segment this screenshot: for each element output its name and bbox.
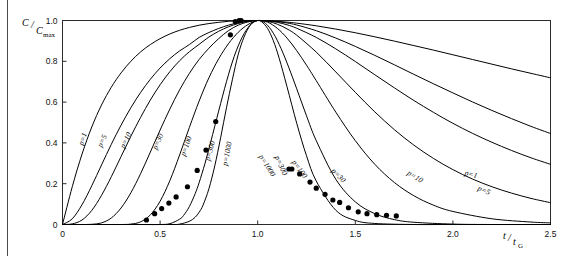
data-point [356, 209, 361, 214]
curve-label-right-p-30: p=30 [329, 166, 348, 185]
y-axis-title-slash: / [30, 19, 35, 30]
chart-svg: 00.51.01.52.02.5 00.20.40.60.81.0 p=1p=1… [0, 0, 573, 256]
x-tick-label: 1.0 [252, 229, 264, 239]
data-point [174, 194, 179, 199]
curve-p-30 [63, 20, 551, 224]
curve-series-group [63, 20, 551, 224]
data-point [384, 213, 389, 218]
data-point [314, 186, 319, 191]
curve-label-left-p-1: p=1 [76, 132, 89, 148]
y-tick-label: 0 [53, 220, 58, 230]
figure-container: 00.51.01.52.02.5 00.20.40.60.81.0 p=1p=1… [0, 0, 573, 256]
data-point [307, 179, 312, 184]
y-tick-label: 1.0 [46, 16, 58, 26]
data-point [185, 184, 190, 189]
curve-label-right-p-10: p=10 [405, 168, 425, 185]
y-tick-label: 0.6 [46, 97, 58, 107]
curve-p-100 [63, 20, 551, 224]
x-axis-title-numerator: t [503, 230, 506, 241]
data-point [330, 197, 335, 202]
y-axis-title-denominator: C [36, 25, 43, 36]
curve-labels-group: p=1p=1p=5p=5p=10p=10p=30p=30p=100p=100p=… [76, 131, 492, 197]
x-tick-label: 2.0 [447, 229, 459, 239]
curve-label-right-p-5: p=5 [476, 183, 492, 197]
curve-p-5 [63, 20, 551, 224]
y-axis-title-numerator: C [22, 17, 29, 28]
data-point [346, 205, 351, 210]
curve-label-right-p-1000: p=1000 [257, 152, 278, 178]
x-axis-title: t / t G [503, 230, 523, 250]
data-point [213, 119, 218, 124]
y-axis-ticks: 00.20.40.60.81.0 [46, 16, 67, 230]
plot-frame [63, 21, 551, 225]
curve-label-left-p-10: p=10 [117, 131, 133, 151]
x-tick-label: 1.5 [349, 229, 361, 239]
curve-p-300 [63, 20, 551, 224]
data-point [394, 213, 399, 218]
data-point [195, 168, 200, 173]
x-tick-label: 2.5 [545, 229, 557, 239]
y-tick-label: 0.8 [46, 56, 58, 66]
curve-label-left-p-30: p=30 [150, 132, 166, 152]
curve-label-left-p-300: p=300 [203, 140, 217, 163]
data-point [159, 206, 164, 211]
curve-p-1 [63, 20, 551, 224]
plot-border [63, 21, 551, 225]
curve-label-left-p-100: p=100 [178, 135, 194, 158]
data-point [166, 200, 171, 205]
data-point [228, 32, 233, 37]
data-point [364, 211, 369, 216]
y-tick-label: 0.2 [46, 179, 58, 189]
data-point [374, 212, 379, 217]
y-axis-title-subscript: max [43, 31, 56, 39]
curve-label-right-p-1: p=1 [463, 168, 478, 180]
x-axis-title-subscript: G [518, 242, 523, 250]
data-point [322, 192, 327, 197]
data-point [239, 18, 244, 23]
page-margin-rule [7, 0, 8, 256]
curve-label-left-p-1000: p=1000 [220, 141, 234, 168]
data-point [152, 211, 157, 216]
y-tick-label: 0.4 [46, 138, 58, 148]
curve-p-10 [63, 20, 551, 224]
x-tick-label: 0.5 [154, 229, 166, 239]
curve-label-left-p-5: p=5 [95, 133, 109, 149]
curve-p-1000 [63, 20, 551, 224]
data-point [144, 217, 149, 222]
x-tick-label: 0 [60, 229, 65, 239]
x-axis-title-denominator: t [513, 236, 516, 247]
x-axis-title-slash: / [507, 232, 512, 243]
data-point [337, 200, 342, 205]
